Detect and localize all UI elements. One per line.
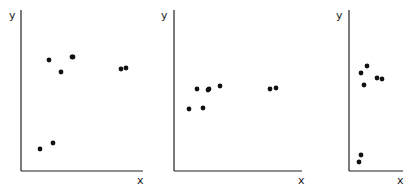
data-point <box>365 64 370 69</box>
data-point <box>268 87 273 92</box>
data-point <box>51 141 56 146</box>
y-axis-label: y <box>161 9 168 22</box>
data-point <box>119 67 124 72</box>
x-axis-label: x <box>137 174 144 187</box>
y-axis-label: y <box>9 9 16 22</box>
y-axis-label: y <box>336 9 343 22</box>
data-point <box>124 66 129 71</box>
x-axis-label: x <box>397 174 404 187</box>
data-point <box>207 87 212 92</box>
data-point <box>195 87 200 92</box>
data-point <box>187 107 192 112</box>
data-point <box>59 70 64 75</box>
data-points <box>187 84 279 112</box>
data-point <box>359 153 364 158</box>
x-axis-label: x <box>298 174 305 187</box>
data-point <box>274 86 279 91</box>
data-point <box>359 71 364 76</box>
scatter-figure: y x y x y x <box>0 0 410 188</box>
data-point <box>375 76 380 81</box>
data-point <box>201 106 206 111</box>
data-points <box>357 64 385 165</box>
data-point <box>71 55 76 60</box>
data-point <box>218 84 223 89</box>
scatter-plot-3: y x <box>336 9 404 187</box>
data-points <box>38 55 129 152</box>
data-point <box>362 83 367 88</box>
scatter-plot-1: y x <box>9 9 144 187</box>
data-point <box>38 147 43 152</box>
data-point <box>380 77 385 82</box>
data-point <box>47 58 52 63</box>
scatter-plot-2: y x <box>161 9 305 187</box>
data-point <box>357 160 362 165</box>
